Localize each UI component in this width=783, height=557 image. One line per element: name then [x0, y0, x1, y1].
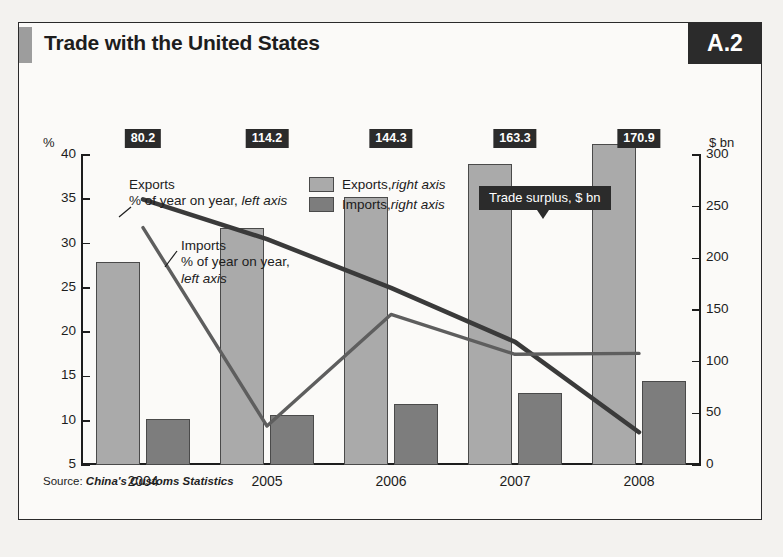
right-tick-label: 0: [706, 456, 766, 471]
title-accent-bar: [19, 27, 32, 63]
figure-panel: Trade with the United States A.2 % $ bn …: [18, 22, 762, 520]
chart-plot-area: % $ bn 403530252015105 30025020015010050…: [81, 155, 701, 465]
annotation-leader-lines: [81, 155, 701, 465]
page-title: Trade with the United States: [44, 31, 320, 55]
trade-surplus-value-badge: 80.2: [125, 129, 161, 148]
right-tick-label: 200: [706, 249, 766, 264]
source-note: Source: China's Customs Statistics: [43, 475, 234, 487]
source-prefix: Source:: [43, 475, 86, 487]
x-axis-label: 2008: [577, 473, 701, 489]
leader-imports: [165, 251, 177, 267]
trade-surplus-value-badge: 114.2: [246, 129, 289, 148]
left-tick-label: 35: [16, 190, 76, 205]
source-text: China's Customs Statistics: [86, 475, 234, 487]
left-tick-label: 40: [16, 146, 76, 161]
left-tick-label: 25: [16, 279, 76, 294]
trade-surplus-value-badge: 163.3: [493, 129, 536, 148]
right-tick-label: 50: [706, 404, 766, 419]
left-tick-label: 5: [16, 456, 76, 471]
right-tick-label: 100: [706, 353, 766, 368]
left-tick-label: 10: [16, 412, 76, 427]
x-axis-label: 2006: [329, 473, 453, 489]
left-tick-label: 30: [16, 235, 76, 250]
leader-exports: [119, 207, 131, 217]
trade-surplus-value-badge: 170.9: [617, 129, 660, 148]
right-tick-label: 150: [706, 301, 766, 316]
x-axis-label: 2007: [453, 473, 577, 489]
right-tick-label: 300: [706, 146, 766, 161]
right-tick-label: 250: [706, 198, 766, 213]
trade-surplus-value-badge: 144.3: [369, 129, 412, 148]
left-tick-label: 15: [16, 367, 76, 382]
figure-badge: A.2: [688, 22, 762, 64]
left-tick-label: 20: [16, 323, 76, 338]
